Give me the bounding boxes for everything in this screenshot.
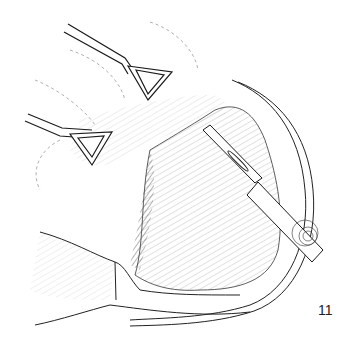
surgical-illustration xyxy=(0,0,356,343)
lower-fold-shading xyxy=(30,232,115,300)
retractor-clamp-upper xyxy=(64,24,172,100)
figure-number: 11 xyxy=(318,302,333,318)
